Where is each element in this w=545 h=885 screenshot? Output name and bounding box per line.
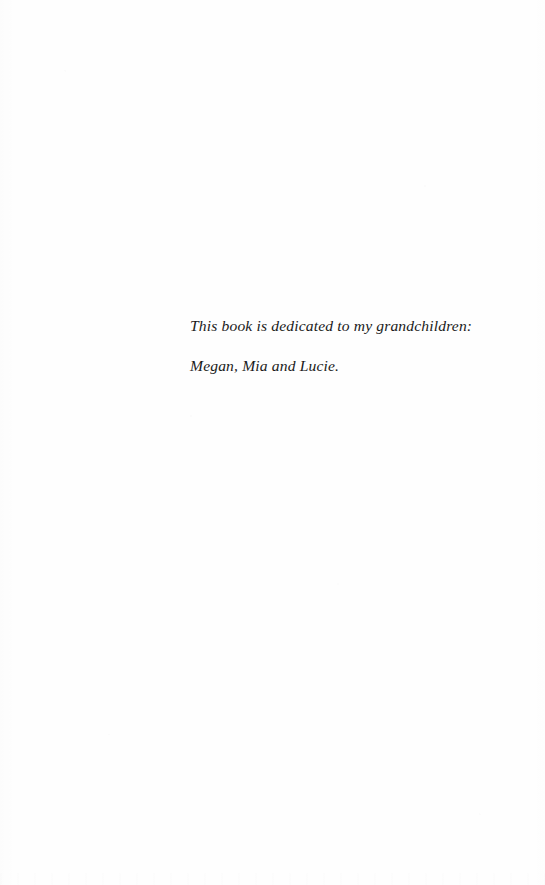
scan-edge-speckle	[0, 873, 545, 885]
dedication-text-block: This book is dedicated to my grandchildr…	[190, 296, 490, 396]
dedication-line-1: This book is dedicated to my grandchildr…	[190, 316, 490, 336]
paper-texture	[0, 0, 545, 885]
book-page: This book is dedicated to my grandchildr…	[0, 0, 545, 885]
dedication-line-2: Megan, Mia and Lucie.	[190, 356, 490, 376]
